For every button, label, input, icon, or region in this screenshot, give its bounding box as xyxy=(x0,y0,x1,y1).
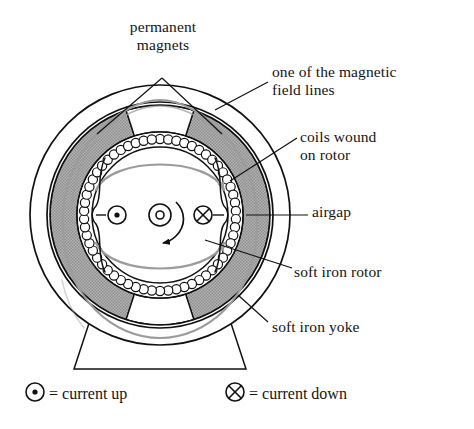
label-permanent-magnets-line1: permanent xyxy=(88,18,238,36)
label-airgap: airgap xyxy=(312,203,462,221)
label-field-lines-line2: field lines xyxy=(272,81,472,99)
label-coils-line1: coils wound xyxy=(300,128,470,146)
leader-field-lines xyxy=(215,82,268,110)
label-soft-iron-yoke: soft iron yoke xyxy=(272,318,462,336)
coil-turn xyxy=(147,135,156,144)
motor-cross-section-diagram: permanent magnets one of the magnetic fi… xyxy=(0,0,474,429)
label-coils-line2: on rotor xyxy=(300,146,470,164)
label-field-lines-line1: one of the magnetic xyxy=(272,63,472,81)
legend-current-down-icon xyxy=(226,383,244,401)
rotor-shaft xyxy=(149,204,171,226)
legend-current-up-icon xyxy=(26,383,44,401)
label-magnetic-field-lines: one of the magnetic field lines xyxy=(272,63,472,98)
label-permanent-magnets-line2: magnets xyxy=(88,36,238,54)
label-soft-iron-rotor: soft iron rotor xyxy=(294,263,474,281)
label-coils-wound-on-rotor: coils wound on rotor xyxy=(300,128,470,163)
legend-current-up-label: = current up xyxy=(49,385,127,403)
label-permanent-magnets: permanent magnets xyxy=(88,18,238,53)
legend-current-down-label: = current down xyxy=(249,385,347,403)
